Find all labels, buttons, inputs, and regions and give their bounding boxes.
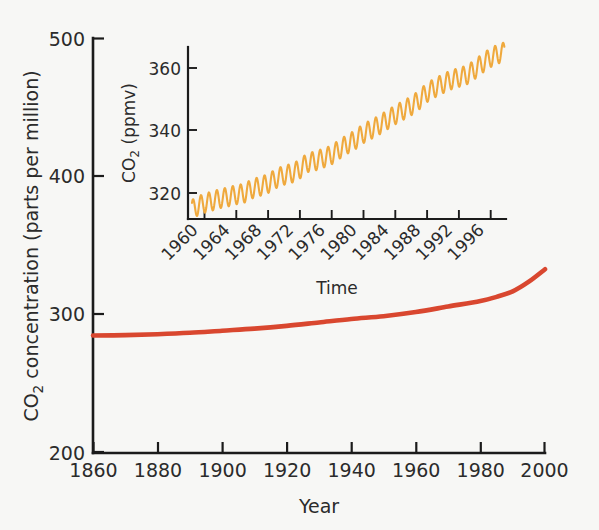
inset-x-tick-label: 1996 bbox=[443, 220, 488, 265]
inset-x-axis-title: Time bbox=[315, 278, 358, 298]
inset-y-tick-label: 340 bbox=[149, 121, 181, 141]
main-y-tick-labels: 500 400 300 200 bbox=[49, 28, 85, 464]
main-x-tick-label: 1860 bbox=[69, 459, 117, 481]
main-x-tick-label: 1960 bbox=[392, 459, 440, 481]
main-x-tick-label: 1900 bbox=[198, 459, 246, 481]
inset-keeling-curve bbox=[192, 43, 504, 216]
inset-x-tick-labels: 1960 1964 1968 1972 1976 1980 1984 1988 … bbox=[157, 220, 488, 265]
inset-y-tick-label: 360 bbox=[149, 59, 181, 79]
main-x-tick-label: 1880 bbox=[134, 459, 182, 481]
inset-y-axis-title-subscript: 2 bbox=[128, 150, 142, 158]
main-x-tick-label: 1920 bbox=[263, 459, 311, 481]
inset-y-axis-title-post: (ppmv) bbox=[119, 83, 139, 150]
main-x-ticks bbox=[94, 442, 545, 453]
main-y-tick-label: 300 bbox=[49, 303, 85, 325]
inset-y-tick-labels: 360 340 320 bbox=[149, 59, 181, 204]
main-y-axis-title: CO2 concentration (parts per million) bbox=[20, 70, 46, 421]
inset-y-ticks bbox=[188, 68, 197, 193]
main-x-tick-label: 1940 bbox=[328, 459, 376, 481]
main-y-ticks bbox=[93, 39, 104, 453]
inset-x-ticks bbox=[205, 210, 491, 219]
inset-axes: 360 340 320 1960 1964 1968 1972 1976 198… bbox=[119, 47, 506, 298]
main-y-axis-title-subscript: 2 bbox=[30, 385, 46, 394]
main-axes: 500 400 300 200 1860 1880 1900 1920 1940… bbox=[20, 28, 569, 517]
main-y-axis-title-post: concentration (parts per million) bbox=[20, 70, 42, 384]
inset-y-axis-title-pre: CO bbox=[119, 158, 139, 183]
main-x-tick-label: 1980 bbox=[457, 459, 505, 481]
main-y-tick-label: 500 bbox=[49, 28, 85, 50]
inset-y-axis-title: CO2 (ppmv) bbox=[119, 83, 142, 183]
main-x-axis-title: Year bbox=[298, 495, 339, 517]
chart-canvas: 500 400 300 200 1860 1880 1900 1920 1940… bbox=[0, 0, 599, 530]
main-x-tick-label: 2000 bbox=[520, 459, 568, 481]
main-y-axis-title-pre: CO bbox=[20, 393, 42, 421]
inset-y-tick-label: 320 bbox=[149, 184, 181, 204]
co2-concentration-figure: 500 400 300 200 1860 1880 1900 1920 1940… bbox=[0, 0, 599, 530]
main-x-tick-labels: 1860 1880 1900 1920 1940 1960 1980 2000 bbox=[69, 459, 568, 481]
main-y-tick-label: 400 bbox=[49, 165, 85, 187]
